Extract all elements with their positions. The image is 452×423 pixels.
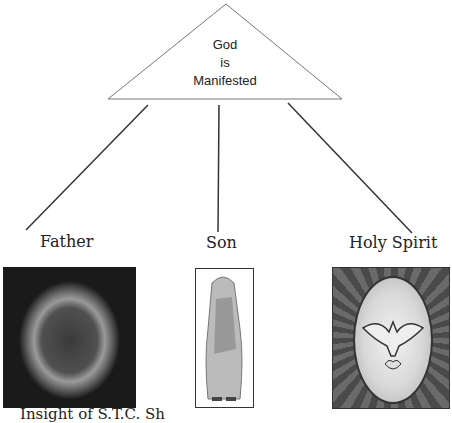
dove-stained-glass-image [332, 267, 450, 409]
top-line-3: Manifested [175, 72, 275, 90]
connector-holy-spirit [288, 103, 412, 233]
label-father: Father [40, 232, 93, 251]
footer-caption: Insight of S.T.C. Sh [20, 405, 165, 423]
top-line-2: is [175, 54, 275, 72]
label-holy-spirit: Holy Spirit [349, 233, 437, 252]
nebula-image [3, 267, 136, 408]
label-son: Son [206, 233, 237, 252]
top-line-1: God [175, 36, 275, 54]
connector-son [218, 105, 219, 232]
connector-father [26, 105, 148, 230]
jesus-figure-image [195, 268, 254, 408]
top-node-text: God is Manifested [175, 36, 275, 90]
